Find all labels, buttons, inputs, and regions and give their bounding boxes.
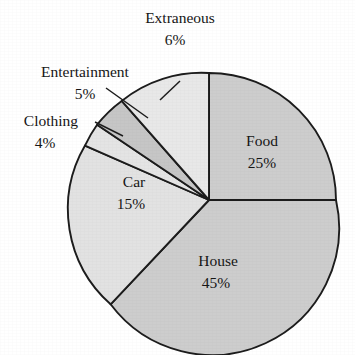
pie-chart-canvas: Extraneous 6% Entertainment 5% Clothing … (0, 0, 355, 355)
slice-label-car: Car (123, 173, 146, 190)
slice-value-entertainment: 5% (75, 85, 96, 102)
slice-label-entertainment: Entertainment (41, 63, 129, 80)
slice-label-extraneous: Extraneous (145, 9, 215, 26)
pie-chart-figure: Extraneous 6% Entertainment 5% Clothing … (0, 0, 355, 355)
slice-value-house: 45% (202, 274, 231, 291)
slice-label-food: Food (246, 132, 278, 149)
slice-value-food: 25% (248, 154, 277, 171)
slice-value-clothing: 4% (35, 134, 56, 151)
slice-value-extraneous: 6% (165, 31, 186, 48)
slice-label-house: House (198, 252, 238, 269)
slice-label-clothing: Clothing (24, 112, 79, 129)
slice-value-car: 15% (117, 195, 146, 212)
